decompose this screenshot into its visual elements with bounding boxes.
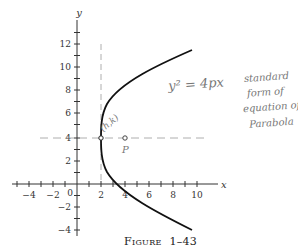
x-tick-label: 10 <box>191 190 203 200</box>
equation-annotation: y² = 4px <box>167 74 225 93</box>
annotation-line: Parabola <box>248 116 294 130</box>
x-tick-labels: −4 −2 0 2 4 6 8 10 <box>22 188 203 200</box>
caption-prefix: Figure <box>124 235 162 248</box>
x-tick-label: 2 <box>98 190 104 200</box>
parabola-figure: −4 −2 0 2 4 6 8 10 12 10 8 6 4 2 −2 −4 y… <box>0 0 298 252</box>
y-tick-label: 10 <box>60 62 72 72</box>
y-axis-label: y <box>75 7 82 18</box>
x-tick-label: 8 <box>170 190 176 200</box>
annotation-line: form of <box>246 85 287 99</box>
x-tick-label: −4 <box>22 190 36 200</box>
caption-number: 1–43 <box>169 235 197 248</box>
figure-caption: Figure 1–43 <box>124 235 197 248</box>
y-tick-label: 6 <box>65 108 71 118</box>
focus-point <box>123 136 127 140</box>
y-tick-label: 8 <box>65 85 71 95</box>
y-tick-label: 2 <box>65 156 71 166</box>
y-tick-label: −4 <box>58 225 72 235</box>
x-tick-label: 0 <box>67 188 73 198</box>
x-axis-label: x <box>221 179 227 190</box>
y-tick-label: 12 <box>60 39 71 49</box>
y-tick-labels: 12 10 8 6 4 2 −2 −4 <box>58 39 72 235</box>
handwritten-annotation: y² = 4px standard form of equation of Pa… <box>167 69 298 135</box>
annotation-line: standard <box>244 70 290 84</box>
x-tick-label: −2 <box>46 190 59 200</box>
annotation-line: equation of <box>243 99 298 114</box>
vertex-point <box>99 136 103 140</box>
focus-label: P <box>121 144 129 155</box>
y-tick-label: −2 <box>58 202 71 212</box>
x-tick-label: 6 <box>146 190 152 200</box>
